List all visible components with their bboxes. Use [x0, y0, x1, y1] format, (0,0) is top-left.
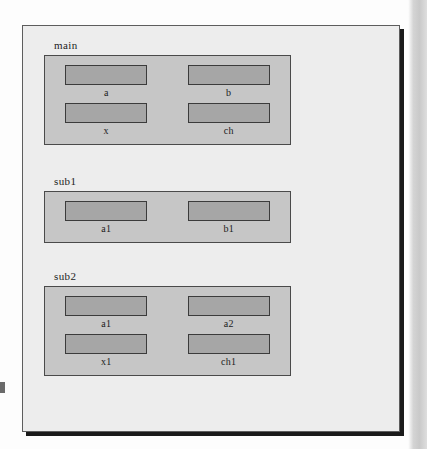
group-main-body: a b x ch: [44, 55, 291, 145]
node-main-b[interactable]: b: [168, 65, 291, 100]
group-sub2-row-2: x1 ch1: [45, 334, 290, 369]
node-label: ch: [224, 124, 234, 138]
node-box: [188, 296, 270, 316]
node-sub2-a2[interactable]: a2: [168, 296, 291, 331]
figure-frame: main a b x: [22, 25, 400, 432]
node-label: a2: [224, 317, 234, 331]
group-sub2-label: sub2: [44, 269, 291, 283]
group-sub1-body: a1 b1: [44, 191, 291, 243]
node-sub1-a1[interactable]: a1: [45, 201, 168, 236]
scan-edge-artifact-right: [408, 0, 427, 449]
node-label: b: [226, 86, 231, 100]
node-main-x[interactable]: x: [45, 103, 168, 138]
group-sub1-label: sub1: [44, 174, 291, 188]
group-sub2-row-1: a1 a2: [45, 296, 290, 331]
group-sub2-body: a1 a2 x1 ch1: [44, 286, 291, 376]
group-main-label: main: [44, 38, 291, 52]
group-main-row-1: a b: [45, 65, 290, 100]
node-box: [188, 103, 270, 123]
node-label: ch1: [221, 355, 236, 369]
node-sub1-b1[interactable]: b1: [168, 201, 291, 236]
node-box: [65, 65, 147, 85]
node-sub2-ch1[interactable]: ch1: [168, 334, 291, 369]
node-box: [65, 201, 147, 221]
node-box: [188, 65, 270, 85]
group-sub1: sub1 a1 b1: [44, 174, 291, 243]
group-sub2: sub2 a1 a2 x1: [44, 269, 291, 376]
group-main-row-2: x ch: [45, 103, 290, 138]
node-label: a1: [101, 317, 111, 331]
group-main: main a b x: [44, 38, 291, 145]
node-box: [188, 201, 270, 221]
scanned-page-background: main a b x: [0, 0, 427, 449]
node-box: [188, 334, 270, 354]
node-box: [65, 334, 147, 354]
node-label: x: [104, 124, 109, 138]
node-label: a: [104, 86, 109, 100]
node-label: x1: [101, 355, 112, 369]
node-box: [65, 103, 147, 123]
group-sub1-row-1: a1 b1: [45, 201, 290, 236]
node-main-ch[interactable]: ch: [168, 103, 291, 138]
node-sub2-a1[interactable]: a1: [45, 296, 168, 331]
node-main-a[interactable]: a: [45, 65, 168, 100]
node-sub2-x1[interactable]: x1: [45, 334, 168, 369]
node-label: b1: [223, 222, 234, 236]
node-label: a1: [101, 222, 111, 236]
node-box: [65, 296, 147, 316]
scan-margin-speck-artifact: [0, 382, 5, 393]
